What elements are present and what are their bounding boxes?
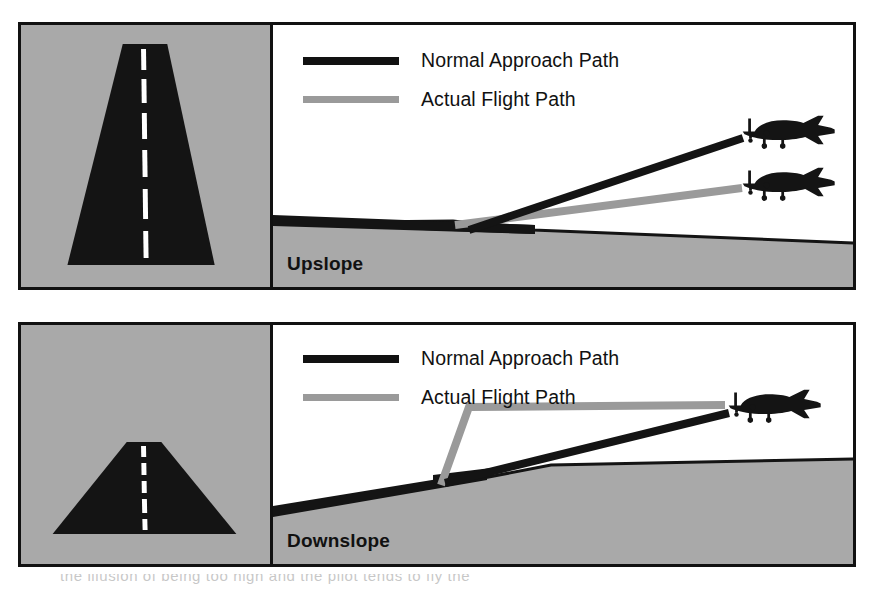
legend-item-actual-flight: Actual Flight Path: [303, 88, 619, 111]
legend-item-normal-approach: Normal Approach Path: [303, 347, 619, 370]
legend-label-normal-approach: Normal Approach Path: [421, 49, 619, 72]
slope-caption-downslope: Downslope: [287, 530, 390, 552]
scan-bleed-text: the illusion of being too high and the p…: [0, 574, 874, 590]
downslope-legend: Normal Approach Path Actual Flight Path: [303, 347, 619, 425]
upslope-plan-view: [21, 25, 273, 287]
upslope-profile-view: Normal Approach Path Actual Flight Path …: [273, 25, 853, 287]
upslope-legend: Normal Approach Path Actual Flight Path: [303, 49, 619, 127]
panel-upslope: Normal Approach Path Actual Flight Path …: [18, 22, 856, 290]
legend-label-actual-flight: Actual Flight Path: [421, 88, 576, 111]
legend-label-normal-approach: Normal Approach Path: [421, 347, 619, 370]
upslope-runway-plan-svg: [21, 25, 270, 287]
panel-downslope: Normal Approach Path Actual Flight Path …: [18, 322, 856, 567]
downslope-profile-view: Normal Approach Path Actual Flight Path …: [273, 325, 853, 564]
legend-item-actual-flight: Actual Flight Path: [303, 386, 619, 409]
legend-item-normal-approach: Normal Approach Path: [303, 49, 619, 72]
downslope-plan-view: [21, 325, 273, 564]
line-swatch-icon: [303, 355, 399, 363]
downslope-runway-plan-svg: [21, 325, 270, 564]
legend-label-actual-flight: Actual Flight Path: [421, 386, 576, 409]
scan-bleed-line: the illusion of being too high and the p…: [0, 574, 874, 584]
line-swatch-icon: [303, 394, 399, 401]
runway-slope-illusion-figure: Normal Approach Path Actual Flight Path …: [0, 0, 874, 590]
slope-caption-upslope: Upslope: [287, 253, 363, 275]
line-swatch-icon: [303, 96, 399, 103]
line-swatch-icon: [303, 57, 399, 65]
